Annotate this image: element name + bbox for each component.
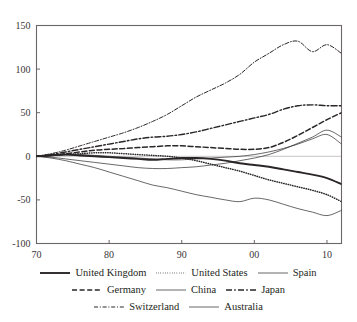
legend-line-swatch: [258, 268, 288, 278]
legend-label: Spain: [293, 267, 317, 278]
chart-plot-region: 150100500-50-1007080900010: [0, 0, 357, 262]
legend-entry-switzerland[interactable]: Switzerland: [94, 301, 179, 312]
legend-line-swatch: [156, 268, 186, 278]
legend-label: Switzerland: [129, 301, 179, 312]
y-axis-tick-label: -100: [12, 238, 30, 249]
chart-figure: 150100500-50-1007080900010 United Kingdo…: [0, 0, 357, 322]
series-line-united-states: [37, 153, 342, 202]
legend-label: Australia: [224, 301, 263, 312]
x-axis-tick-label: 70: [32, 249, 42, 260]
y-axis-tick-label: 0: [26, 151, 31, 162]
series-line-switzerland: [37, 41, 342, 156]
y-axis-tick-label: -50: [17, 194, 30, 205]
legend-line-swatch: [94, 302, 124, 312]
legend-label: Germany: [107, 284, 146, 295]
legend-line-swatch: [40, 268, 70, 278]
line-chart-svg: 150100500-50-1007080900010: [0, 0, 357, 262]
series-group: [37, 41, 342, 216]
legend-line-swatch: [226, 285, 256, 295]
x-axis-tick-label: 90: [177, 249, 187, 260]
legend-entry-united-kingdom[interactable]: United Kingdom: [40, 267, 146, 278]
legend-entry-united-states[interactable]: United States: [156, 267, 247, 278]
legend-label: United Kingdom: [75, 267, 146, 278]
chart-legend: United KingdomUnited StatesSpainGermanyC…: [0, 264, 357, 315]
y-axis-tick-label: 150: [16, 20, 31, 31]
series-line-japan: [37, 105, 342, 156]
legend-entry-china[interactable]: China: [156, 284, 216, 295]
y-axis-tick-label: 100: [16, 64, 31, 75]
legend-row: SwitzerlandAustralia: [0, 298, 357, 315]
legend-line-swatch: [72, 285, 102, 295]
series-line-germany: [37, 113, 342, 157]
legend-line-swatch: [189, 302, 219, 312]
legend-row: United KingdomUnited StatesSpain: [0, 264, 357, 281]
y-axis-tick-label: 50: [21, 107, 31, 118]
legend-entry-japan[interactable]: Japan: [226, 284, 285, 295]
legend-label: United States: [191, 267, 247, 278]
plot-frame: [37, 26, 342, 244]
x-axis-tick-label: 80: [104, 249, 114, 260]
legend-label: Japan: [261, 284, 285, 295]
x-axis-tick-label: 10: [322, 249, 332, 260]
legend-row: GermanyChinaJapan: [0, 281, 357, 298]
legend-entry-germany[interactable]: Germany: [72, 284, 146, 295]
legend-label: China: [191, 284, 216, 295]
legend-entry-australia[interactable]: Australia: [189, 301, 263, 312]
x-axis-tick-label: 00: [249, 249, 259, 260]
legend-line-swatch: [156, 285, 186, 295]
legend-entry-spain[interactable]: Spain: [258, 267, 317, 278]
